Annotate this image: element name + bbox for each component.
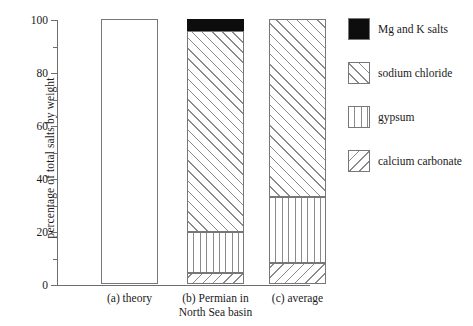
legend-item-gypsum[interactable]: gypsum [348, 106, 414, 128]
x-label-b-line2: North Sea basin [160, 306, 271, 320]
y-tick-minor-70 [53, 100, 57, 101]
legend-item-sodium-chloride[interactable]: sodium chloride [348, 62, 452, 84]
y-tick-minor-90 [53, 47, 57, 48]
y-tick-label-60: 60 [37, 120, 49, 132]
legend-swatch-calcium-carbonate [348, 150, 370, 172]
x-label-c-line1: (c) average [249, 292, 346, 306]
y-tick-label-40: 40 [37, 173, 49, 185]
y-tick-label-80: 80 [37, 67, 49, 79]
chart-figure: percentage of total salts by weight 100 … [0, 0, 473, 326]
y-tick-minor-50 [53, 153, 57, 154]
bar-b-permian[interactable] [187, 19, 244, 284]
legend-swatch-gypsum [348, 106, 370, 128]
y-tick-minor-10 [53, 259, 57, 260]
y-tick-label-0: 0 [42, 279, 48, 291]
legend-label-calcium-carbonate: calcium carbonate [378, 155, 462, 167]
bar-b-segment-calcium-carbonate [187, 273, 244, 284]
legend-swatch-mg-and-k-salts [348, 18, 370, 40]
bar-c-average[interactable] [269, 19, 326, 284]
x-label-c: (c) average [249, 292, 346, 306]
bar-c-segment-calcium-carbonate [269, 263, 326, 284]
legend-label-sodium-chloride: sodium chloride [378, 67, 452, 79]
legend-item-mg-and-k-salts[interactable]: Mg and K salts [348, 18, 448, 40]
legend-label-gypsum: gypsum [378, 111, 414, 123]
legend-label-mg-and-k-salts: Mg and K salts [378, 23, 448, 35]
y-axis-line [57, 20, 58, 286]
y-tick-label-20: 20 [37, 226, 49, 238]
legend-item-calcium-carbonate[interactable]: calcium carbonate [348, 150, 462, 172]
bar-b-segment-sodium-chloride [187, 31, 244, 232]
y-axis-title: percentage of total salts by weight [44, 13, 56, 303]
bar-b-segment-mg-and-k-salts [187, 19, 244, 31]
legend-swatch-sodium-chloride [348, 62, 370, 84]
y-tick-label-100: 100 [31, 14, 48, 26]
bar-a-theory[interactable] [101, 19, 158, 284]
y-tick-minor-30 [53, 206, 57, 207]
bar-c-segment-gypsum [269, 197, 326, 263]
x-axis-line [57, 285, 310, 286]
bar-c-segment-sodium-chloride [269, 19, 326, 197]
bar-a-segment-total [101, 19, 158, 284]
bar-b-segment-gypsum [187, 232, 244, 273]
plot-area: 100 80 60 40 20 0 [57, 20, 310, 285]
